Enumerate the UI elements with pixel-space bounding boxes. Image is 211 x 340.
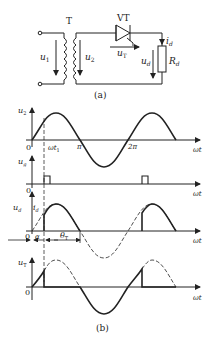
uT-axis-label: uT — [18, 258, 27, 268]
ug-axis-label: ug — [18, 157, 26, 168]
ug-x-label: ωt — [193, 190, 202, 198]
caption-b: (b) — [96, 323, 109, 333]
2pi-tick: 2π — [127, 143, 137, 151]
u2-label: u2 — [85, 52, 95, 63]
u2-x-label: ωt — [193, 146, 202, 154]
secondary-winding — [74, 38, 77, 80]
pi-tick: π — [76, 143, 82, 151]
u1-label: u1 — [40, 52, 50, 63]
caption-a: (a) — [94, 90, 106, 100]
resistor-icon — [158, 46, 166, 72]
rd-label: Rd — [168, 56, 180, 67]
theta-label: θT — [60, 231, 69, 241]
u2-origin: 0 — [26, 143, 31, 152]
ud-origin: 0 — [25, 232, 30, 241]
transformer-label: T — [66, 16, 72, 26]
circuit-diagram — [38, 25, 166, 86]
ud-label: ud — [141, 56, 151, 67]
uT-label: uT — [117, 48, 127, 59]
ug-origin: 0 — [26, 186, 31, 195]
primary-winding — [64, 38, 67, 80]
input-terminal-top — [38, 31, 42, 35]
id-label: id — [166, 36, 173, 47]
uT-waveform-plot — [26, 258, 200, 314]
u2-axis-label: u2 — [18, 106, 26, 116]
thyristor-icon — [116, 25, 133, 46]
u2-waveform-plot — [26, 108, 200, 167]
id-axis-label: id — [33, 203, 39, 213]
single-phase-half-wave-controlled-rectifier-figure: T VT u1 u2 uT ud id Rd (a) u2 0 ωt1 π 2π… — [0, 0, 211, 340]
ud-axis-label: ud — [13, 203, 21, 213]
ud-x-label: ωt — [193, 237, 202, 245]
ug-pulse-plot — [26, 156, 200, 188]
input-terminal-bottom — [38, 82, 42, 86]
wt1-tick: ωt1 — [48, 144, 60, 153]
thyristor-label: VT — [116, 13, 130, 23]
uT-x-label: ωt — [193, 294, 202, 302]
alpha-label: α — [35, 233, 40, 241]
ud-id-waveform-plot — [8, 192, 200, 258]
uT-origin: 0 — [25, 288, 30, 297]
